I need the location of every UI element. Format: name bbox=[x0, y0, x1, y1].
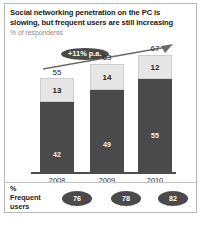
bar-total-label: 55 bbox=[37, 68, 77, 77]
chart-subtitle: % of respondents bbox=[10, 29, 191, 37]
bar-segment-value: 13 bbox=[41, 86, 73, 95]
bar-segment-frequent: 55 bbox=[138, 79, 172, 172]
x-axis-line bbox=[31, 172, 176, 174]
bar-segment-value: 14 bbox=[91, 73, 123, 82]
bar-segment-occasional: 12 bbox=[138, 55, 172, 79]
chart-title: Social networking penetration on the PC … bbox=[10, 8, 191, 27]
bar-segment-value: 55 bbox=[138, 131, 172, 140]
frequent-users-label: % Frequent users bbox=[10, 184, 41, 211]
bar-group-2010: 67 12 55 bbox=[135, 48, 175, 172]
frequent-users-label-line1: % bbox=[10, 184, 41, 193]
bar-segment-occasional: 13 bbox=[40, 78, 74, 102]
bar-total-label: 67 bbox=[135, 44, 175, 53]
bar-segment-value: 12 bbox=[139, 63, 171, 72]
bar-segment-value: 42 bbox=[40, 150, 74, 159]
frequent-users-label-line2: Frequent bbox=[10, 193, 41, 202]
bar-group-2009: 63 14 49 bbox=[87, 48, 127, 172]
bar-segment-value: 49 bbox=[90, 140, 124, 149]
bar-total-label: 63 bbox=[87, 53, 127, 62]
bar-segment-occasional: 14 bbox=[90, 64, 124, 90]
bar-group-2008: 55 13 42 bbox=[37, 48, 77, 172]
frequent-users-bubble-2010: 82 bbox=[158, 191, 188, 206]
frequent-users-label-line3: users bbox=[10, 202, 41, 211]
chart-figure: Social networking penetration on the PC … bbox=[4, 3, 197, 213]
bar-segment-frequent: 42 bbox=[40, 102, 74, 172]
chart-plot-area: +11% p.a. 55 13 42 63 14 49 67 bbox=[5, 40, 198, 180]
frequent-users-row: % Frequent users 76 78 82 bbox=[5, 182, 198, 214]
chart-header: Social networking penetration on the PC … bbox=[5, 4, 196, 37]
bar-segment-frequent: 49 bbox=[90, 90, 124, 172]
frequent-users-bubble-2009: 78 bbox=[111, 191, 141, 206]
frequent-users-bubble-2008: 76 bbox=[62, 191, 92, 206]
